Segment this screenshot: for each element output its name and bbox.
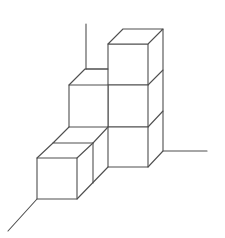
front-cube-front-face (37, 158, 77, 199)
top-cube-front-face (108, 44, 148, 85)
middle-right-cube-front-face (108, 85, 148, 127)
middle-left-cube-front-face (69, 85, 108, 127)
stacked-cubes-diagram (0, 0, 225, 238)
bottom-right-cube-front-face (108, 127, 148, 167)
